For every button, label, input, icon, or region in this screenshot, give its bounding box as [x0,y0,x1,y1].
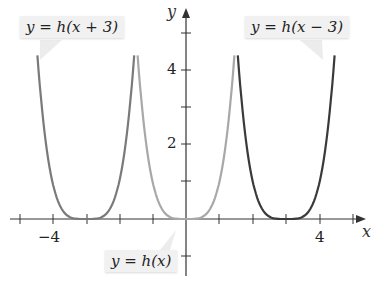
x-tick-label-4: 4 [315,228,325,246]
x-tick-label-neg4: −4 [38,228,60,246]
y-tick-label-2: 2 [167,134,177,152]
curve-h-x-minus-3 [238,55,335,219]
curve-h-x-plus-3 [37,55,134,219]
y-axis-arrow-icon [182,8,190,18]
label-h-x-minus-3: y = h(x − 3) [245,16,349,38]
x-axis-label: x [362,222,371,241]
label-h-x-plus-3: y = h(x + 3) [20,16,124,38]
callout-tail-base [160,230,176,250]
y-axis-label: y [167,2,176,21]
callout-tail-left [40,40,62,60]
y-tick-label-4: 4 [167,60,177,78]
label-h-x: y = h(x) [105,250,177,272]
callout-tail-right [300,40,323,60]
